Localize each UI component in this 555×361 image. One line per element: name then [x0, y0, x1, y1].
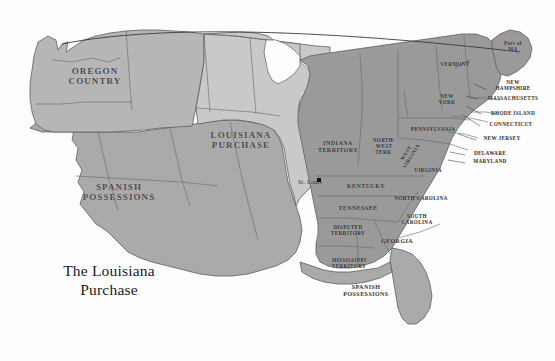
region-florida-spanish: [390, 248, 432, 324]
louisiana-purchase-map: OREGON COUNTRY LOUISIANA PURCHASE SPANIS…: [0, 0, 555, 361]
map-title-line2: Purchase: [24, 281, 194, 300]
leader-delaware: [450, 152, 465, 155]
region-oregon-country: [30, 30, 204, 132]
map-canvas: [0, 0, 555, 361]
region-spanish-possessions-west: [30, 118, 302, 276]
map-title-line1: The Louisiana: [24, 262, 194, 281]
map-title: The Louisiana Purchase: [24, 262, 194, 300]
leader-maryland: [448, 160, 465, 163]
region-eastern-states: [298, 34, 502, 268]
city-marker-st-louis: [317, 178, 321, 182]
region-part-of-ma: [492, 30, 532, 76]
